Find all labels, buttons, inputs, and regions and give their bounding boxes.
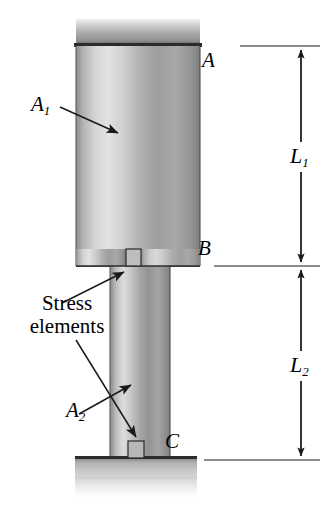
label-area-2-base: A	[66, 398, 79, 422]
stress-element-b	[126, 249, 141, 266]
label-length-1-subscript: 1	[302, 155, 309, 170]
label-length-2: L2	[290, 354, 309, 376]
top-support-plate	[74, 17, 202, 47]
figure-stepped-bar: A B C A1 A2 L1 L2 Stress elements	[0, 0, 333, 507]
label-point-c: C	[165, 431, 179, 452]
label-point-b: B	[198, 238, 211, 259]
label-length-1-base: L	[290, 143, 302, 168]
lower-bar-segment	[110, 249, 170, 458]
stress-element-c	[128, 441, 144, 458]
label-length-1: L1	[290, 145, 309, 167]
label-length-2-base: L	[290, 352, 302, 377]
label-area-1-subscript: 1	[44, 103, 51, 118]
label-stress-elements-line2: elements	[26, 315, 108, 338]
label-area-1: A1	[31, 94, 50, 115]
dimension-extension-lines	[204, 46, 320, 460]
label-area-1-base: A	[31, 92, 44, 116]
upper-bar-segment	[76, 46, 200, 266]
base-support-plate	[75, 456, 197, 501]
label-area-2: A2	[66, 400, 85, 421]
label-area-2-subscript: 2	[79, 409, 86, 424]
label-length-2-subscript: 2	[302, 364, 309, 379]
label-point-a: A	[202, 50, 215, 71]
label-stress-elements: Stress elements	[26, 292, 108, 338]
label-stress-elements-line1: Stress	[26, 292, 108, 315]
